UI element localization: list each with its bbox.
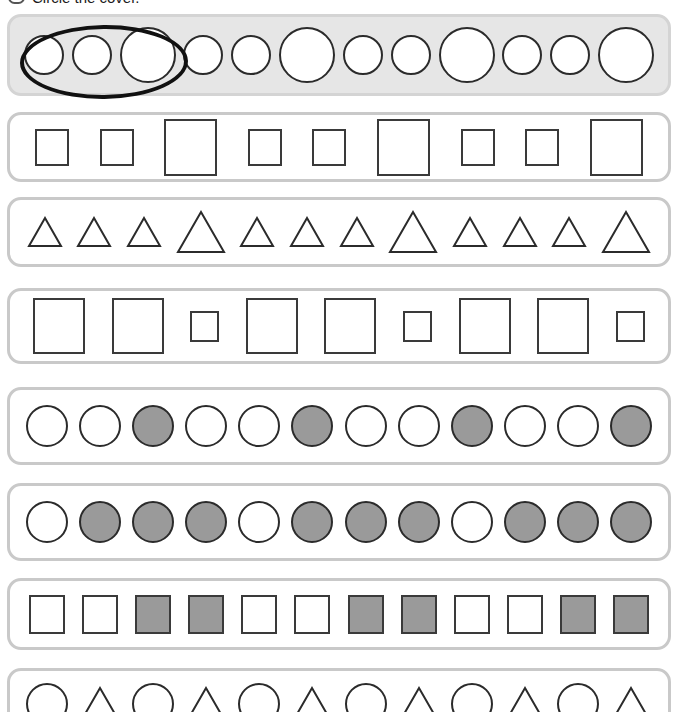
circle-icon <box>398 405 440 447</box>
shape-cell[interactable] <box>504 501 546 543</box>
shape-cell[interactable] <box>132 683 174 712</box>
shape-cell[interactable] <box>451 683 493 712</box>
pattern-row[interactable] <box>7 483 671 561</box>
shape-cell[interactable] <box>452 214 488 250</box>
shape-cell[interactable] <box>238 405 280 447</box>
shape-cell[interactable] <box>26 501 68 543</box>
shape-cell[interactable] <box>401 596 437 632</box>
shape-cell[interactable] <box>610 405 652 447</box>
shape-cell[interactable] <box>241 596 277 632</box>
pattern-row[interactable] <box>7 387 671 465</box>
shape-cell[interactable] <box>598 27 654 83</box>
shape-cell[interactable] <box>459 300 511 352</box>
shape-cell[interactable] <box>345 683 387 712</box>
shape-cell[interactable] <box>294 596 330 632</box>
shape-cell[interactable] <box>231 35 271 75</box>
shape-cell[interactable] <box>391 35 431 75</box>
shape-cell[interactable] <box>35 130 69 164</box>
shape-cell[interactable] <box>324 300 376 352</box>
shape-cell[interactable] <box>238 501 280 543</box>
pattern-row[interactable] <box>7 578 671 650</box>
shape-cell[interactable] <box>348 596 384 632</box>
shape-cell[interactable] <box>185 501 227 543</box>
shape-cell[interactable] <box>291 501 333 543</box>
shape-cell[interactable] <box>190 312 219 341</box>
shape-cell[interactable] <box>502 214 538 250</box>
shape-cell[interactable] <box>551 214 587 250</box>
shape-cell[interactable] <box>238 683 280 712</box>
shape-cell[interactable] <box>126 214 162 250</box>
shape-cell[interactable] <box>312 130 346 164</box>
shape-cell[interactable] <box>248 130 282 164</box>
shape-cell[interactable] <box>550 35 590 75</box>
shape-cell[interactable] <box>120 27 176 83</box>
pattern-row[interactable] <box>7 668 671 712</box>
shape-cell[interactable] <box>112 300 164 352</box>
circle-icon <box>185 501 227 543</box>
shape-cell[interactable] <box>610 683 652 712</box>
shape-cell[interactable] <box>398 405 440 447</box>
shape-cell[interactable] <box>76 214 112 250</box>
shape-cell[interactable] <box>345 501 387 543</box>
shape-cell[interactable] <box>398 683 440 712</box>
shape-cell[interactable] <box>135 596 171 632</box>
shape-cell[interactable] <box>398 501 440 543</box>
shape-cell[interactable] <box>24 35 64 75</box>
shape-cell[interactable] <box>132 405 174 447</box>
shape-cell[interactable] <box>557 501 599 543</box>
shape-cell[interactable] <box>403 312 432 341</box>
shape-cell[interactable] <box>613 596 649 632</box>
shape-cell[interactable] <box>29 596 65 632</box>
shape-cell[interactable] <box>185 405 227 447</box>
shape-cell[interactable] <box>454 596 490 632</box>
shape-cell[interactable] <box>507 596 543 632</box>
shape-cell[interactable] <box>188 596 224 632</box>
shape-cell[interactable] <box>164 121 217 174</box>
shape-cell[interactable] <box>525 130 559 164</box>
shape-cell[interactable] <box>461 130 495 164</box>
shape-cell[interactable] <box>33 300 85 352</box>
shape-cell[interactable] <box>451 501 493 543</box>
shape-cell[interactable] <box>560 596 596 632</box>
shape-cell[interactable] <box>26 405 68 447</box>
shape-cell[interactable] <box>504 683 546 712</box>
shape-cell[interactable] <box>502 35 542 75</box>
pattern-row[interactable] <box>7 112 671 182</box>
shape-cell[interactable] <box>291 683 333 712</box>
shape-cell[interactable] <box>557 405 599 447</box>
pattern-row[interactable] <box>7 197 671 267</box>
pattern-row[interactable] <box>7 14 671 96</box>
pattern-row[interactable] <box>7 288 671 364</box>
shape-cell[interactable] <box>100 130 134 164</box>
shape-cell[interactable] <box>557 683 599 712</box>
shape-cell[interactable] <box>176 207 226 257</box>
shape-cell[interactable] <box>82 596 118 632</box>
shape-cell[interactable] <box>183 35 223 75</box>
shape-cell[interactable] <box>27 214 63 250</box>
shape-cell[interactable] <box>79 683 121 712</box>
shape-cell[interactable] <box>388 207 438 257</box>
shape-cell[interactable] <box>590 121 643 174</box>
shape-cell[interactable] <box>343 35 383 75</box>
shape-cell[interactable] <box>132 501 174 543</box>
shape-cell[interactable] <box>79 405 121 447</box>
shape-cell[interactable] <box>345 405 387 447</box>
shape-cell[interactable] <box>26 683 68 712</box>
shape-cell[interactable] <box>451 405 493 447</box>
shape-cell[interactable] <box>504 405 546 447</box>
shape-cell[interactable] <box>79 501 121 543</box>
shape-cell[interactable] <box>610 501 652 543</box>
shape-cell[interactable] <box>601 207 651 257</box>
shape-cell[interactable] <box>339 214 375 250</box>
shape-cell[interactable] <box>289 214 325 250</box>
shape-cell[interactable] <box>291 405 333 447</box>
shape-cell[interactable] <box>239 214 275 250</box>
shape-cell[interactable] <box>185 683 227 712</box>
shape-cell[interactable] <box>616 312 645 341</box>
shape-cell[interactable] <box>439 27 495 83</box>
shape-cell[interactable] <box>377 121 430 174</box>
shape-cell[interactable] <box>246 300 298 352</box>
shape-cell[interactable] <box>72 35 112 75</box>
shape-cell[interactable] <box>279 27 335 83</box>
shape-cell[interactable] <box>537 300 589 352</box>
